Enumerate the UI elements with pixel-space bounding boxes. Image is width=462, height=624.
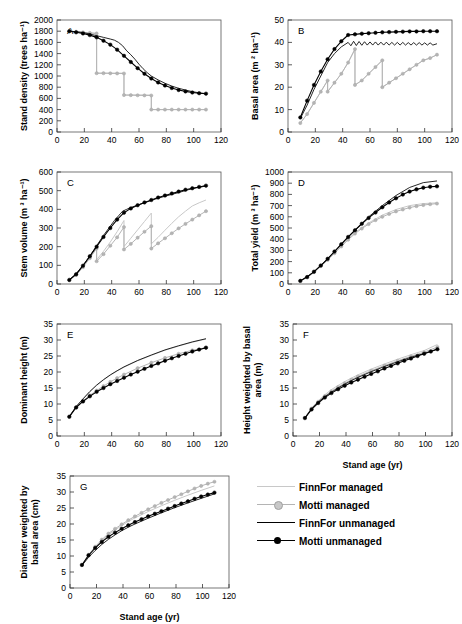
data-point [436,348,440,352]
data-point [383,367,387,371]
y-tick-label: 20 [275,82,285,92]
figure-panel-grid: 0200400600800100012001400160018002000020… [0,0,462,624]
x-tick-label: 20 [311,287,321,297]
data-point [374,31,378,35]
x-tick-label: 0 [55,439,60,449]
legend: FinnFor managed Motti managed FinnFor un… [253,478,458,550]
series-line [69,200,206,280]
data-point [435,29,439,33]
data-point [381,59,384,62]
data-point [177,227,180,230]
data-point [129,60,133,64]
data-point [140,511,143,514]
x-tick-label: 120 [214,135,228,145]
x-tick-label: 0 [68,591,73,601]
y-tick-label: 0 [279,127,284,137]
data-point [422,203,425,206]
data-point [122,225,125,228]
y-tick-label: 25 [280,351,290,361]
data-point [170,356,174,360]
data-point [374,211,378,215]
series-line [69,186,206,280]
y-tick-label: 0 [48,279,53,289]
data-point [326,57,330,61]
y-tick-label: 1400 [34,49,53,59]
series-line [69,348,206,417]
x-tick-label: 60 [365,287,375,297]
x-tick-label: 80 [162,287,172,297]
y-tick-label: 5 [284,415,289,425]
data-point [346,235,350,239]
data-point [213,491,217,495]
y-tick-label: 35 [44,319,54,329]
data-point [129,242,132,245]
x-tick-label: 20 [80,135,90,145]
data-point [330,391,334,395]
y-tick-label: 400 [270,234,284,244]
x-axis-label: Stand age (yr) [342,460,402,470]
y-tick-label: 25 [44,351,54,361]
y-tick-label: 30 [275,60,285,70]
legend-label-motti-unmanaged: Motti unmanaged [299,536,382,547]
panel-letter: D [298,177,305,188]
panel-letter: G [80,481,87,492]
legend-item: Motti unmanaged [253,532,458,550]
data-point [199,495,203,499]
y-tick-label: 800 [39,82,53,92]
data-point [415,30,419,33]
x-tick-label: 100 [187,287,201,297]
panel-letter: C [67,177,74,188]
x-tick-label: 20 [80,439,90,449]
data-point [319,90,322,93]
data-point [206,493,210,497]
data-point [143,367,147,371]
y-axis-label: Basal area (m ² ha⁻¹) [250,32,260,120]
data-point [150,364,154,368]
y-axis-label: Diameter weighted by [19,485,29,578]
data-point [356,378,360,382]
series-line [300,204,437,282]
data-point [312,101,315,104]
y-tick-label: 1000 [34,71,53,81]
data-point [191,350,195,354]
x-tick-label: 40 [341,439,351,449]
data-point [435,202,438,205]
y-tick-label: 10 [275,105,285,115]
series-line [300,203,437,281]
x-tick-label: 60 [134,439,144,449]
panel-E: 05101520253035020406080100120Dominant he… [0,312,231,464]
data-point [129,207,133,211]
data-point [206,482,209,485]
series-line [300,49,437,123]
data-point [367,72,370,75]
y-tick-label: 10 [44,399,54,409]
data-point [120,523,123,526]
data-point [74,31,78,35]
y-tick-label: 10 [280,399,290,409]
data-point [102,39,106,43]
data-point [163,194,167,198]
data-point [109,244,112,247]
data-point [102,235,106,239]
data-point [415,63,418,66]
data-point [340,40,344,44]
data-point [116,72,119,75]
data-point [136,94,139,97]
x-tick-label: 80 [393,287,403,297]
data-point [428,29,432,33]
data-point [374,65,377,68]
data-point [122,93,125,96]
y-tick-label: 1000 [265,167,284,177]
data-point [109,43,113,47]
data-point [326,257,330,261]
x-tick-label: 60 [134,287,144,297]
data-point [389,364,393,368]
x-tick-label: 120 [214,287,228,297]
x-axis-label: Stand age (yr) [119,612,179,622]
y-tick-label: 30 [44,335,54,345]
panel-B: 01020304050020406080100120Basal area (m … [231,8,462,160]
data-point [109,226,113,230]
data-point [109,382,113,386]
data-point [68,29,72,33]
data-point [136,203,140,207]
